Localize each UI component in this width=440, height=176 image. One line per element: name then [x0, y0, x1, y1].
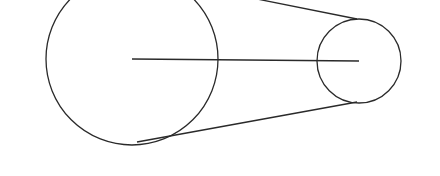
center-distance-line — [132, 59, 359, 61]
belt-lower-segment — [137, 102, 357, 142]
belt-pulley-diagram — [0, 0, 440, 176]
belt-upper-segment — [257, 0, 357, 19]
large-pulley — [46, 0, 218, 145]
